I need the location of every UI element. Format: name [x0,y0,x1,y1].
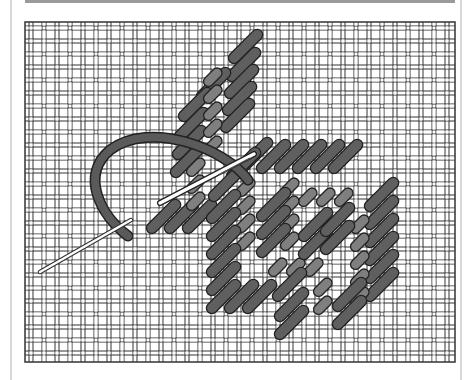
needlepoint-illustration [0,0,474,380]
